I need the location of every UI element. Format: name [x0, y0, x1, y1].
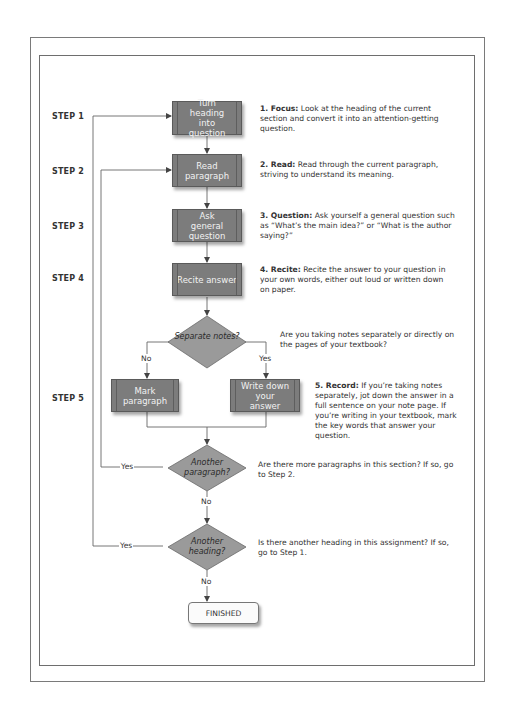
finished-label: FINISHED — [206, 609, 242, 618]
read-title: 2. Read: — [260, 160, 295, 169]
another-heading-no-label: No — [200, 577, 212, 586]
separate-notes-yes-label: Yes — [258, 354, 272, 363]
record-description: 5. Record: If you’re taking notes separa… — [315, 381, 460, 441]
step-3-label: STEP 3 — [52, 222, 84, 231]
separate-notes-no-label: No — [140, 354, 152, 363]
write-answer-label: Write down your answer — [231, 381, 299, 411]
step-1-label: STEP 1 — [52, 112, 84, 121]
separate-notes-description: Are you taking notes separately or direc… — [280, 330, 460, 350]
recite-description: 4. Recite: Recite the answer to your que… — [260, 265, 455, 295]
record-title: 5. Record: — [315, 381, 359, 390]
separate-notes-label: Separate notes? — [172, 332, 242, 342]
another-heading-description: Is there another heading in this assignm… — [258, 538, 458, 558]
read-paragraph-box: Read paragraph — [172, 154, 242, 187]
focus-title: 1. Focus: — [260, 104, 298, 113]
ask-question-box: Ask general question — [172, 209, 242, 242]
decision-separate-notes-shape — [168, 316, 246, 368]
focus-description: 1. Focus: Look at the heading of the cur… — [260, 104, 455, 134]
step-5-label: STEP 5 — [52, 394, 84, 403]
recite-answer-box: Recite answer — [172, 263, 242, 296]
another-heading-label: Another heading? — [172, 537, 242, 556]
read-description: 2. Read: Read through the current paragr… — [260, 160, 455, 180]
another-paragraph-label: Another paragraph? — [172, 458, 242, 477]
recite-answer-label: Recite answer — [177, 275, 237, 285]
another-paragraph-description: Are there more paragraphs in this sectio… — [258, 460, 458, 480]
turn-heading-label: Turn heading into question — [173, 98, 241, 138]
recite-title: 4. Recite: — [260, 265, 301, 274]
turn-heading-box: Turn heading into question — [172, 101, 242, 135]
another-paragraph-yes-label: Yes — [120, 462, 134, 471]
question-title: 3. Question: — [260, 211, 312, 220]
another-heading-yes-label: Yes — [119, 541, 133, 550]
step-2-label: STEP 2 — [52, 167, 84, 176]
step-4-label: STEP 4 — [52, 274, 84, 283]
write-answer-box: Write down your answer — [230, 379, 300, 412]
question-description: 3. Question: Ask yourself a general ques… — [260, 211, 455, 241]
read-paragraph-label: Read paragraph — [171, 161, 243, 181]
finished-terminal: FINISHED — [188, 602, 259, 624]
mark-paragraph-box: Mark paragraph — [111, 379, 179, 412]
another-paragraph-no-label: No — [200, 497, 212, 506]
ask-question-label: Ask general question — [173, 211, 241, 241]
mark-paragraph-label: Mark paragraph — [112, 386, 178, 406]
